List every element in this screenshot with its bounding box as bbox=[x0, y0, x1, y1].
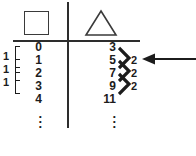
left-arrow-icon bbox=[142, 52, 196, 66]
triangle-icon bbox=[84, 9, 118, 37]
vertical-ellipsis-icon: ... bbox=[12, 111, 42, 126]
square-icon bbox=[24, 11, 49, 35]
column-triangle-values: 3 5 7 9 11 ... bbox=[86, 41, 116, 126]
value-cell: 11 bbox=[86, 93, 116, 106]
angle-bracket-icon bbox=[118, 72, 131, 97]
difference-value: 2 bbox=[131, 68, 137, 79]
column-divider-vertical bbox=[67, 2, 69, 128]
difference-value: 2 bbox=[131, 81, 137, 92]
figure-canvas: 0 1 2 3 4 ... 1 1 1 3 5 7 9 11 ... 2 bbox=[0, 0, 196, 156]
difference-value: 2 bbox=[131, 55, 137, 66]
vertical-ellipsis-icon: ... bbox=[86, 111, 116, 126]
difference-value: 1 bbox=[3, 77, 9, 88]
bracket-icon bbox=[15, 72, 20, 94]
difference-annotation-square: 1 bbox=[2, 71, 32, 97]
